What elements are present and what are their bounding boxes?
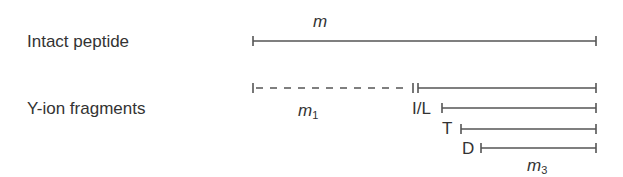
fragment-row-1 <box>253 83 596 93</box>
fragment-lines <box>0 0 623 177</box>
fragment-d <box>481 143 596 153</box>
fragment-t <box>461 124 596 134</box>
fragment-il <box>442 103 596 113</box>
intact-peptide-bar <box>253 36 596 46</box>
